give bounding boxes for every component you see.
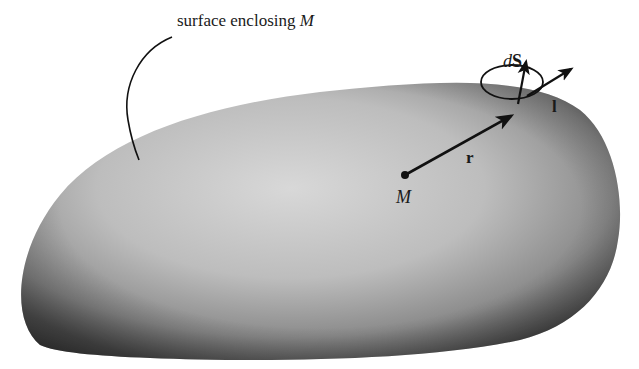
unit-vector-label: l	[552, 97, 557, 116]
radius-label: r	[466, 148, 474, 167]
enclosing-surface	[21, 83, 620, 360]
mass-label: M	[395, 187, 412, 207]
gauss-law-diagram: surface enclosing M M r dS l	[0, 0, 639, 369]
callout-label: surface enclosing M	[177, 11, 315, 30]
area-element-label: dS	[503, 51, 522, 71]
mass-point	[401, 171, 409, 179]
unit-vector-arrow	[527, 69, 571, 96]
